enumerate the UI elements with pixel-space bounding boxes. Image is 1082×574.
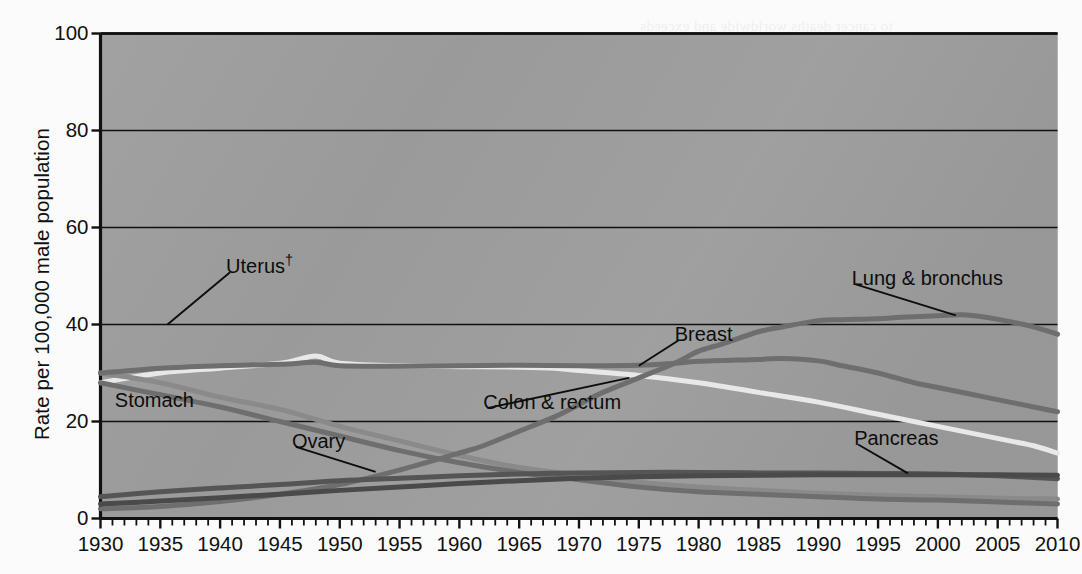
annotation-lung-bronchus: Lung & bronchus — [852, 268, 1003, 288]
annotation-ovary: Ovary — [292, 431, 345, 451]
cancer-death-rate-chart: Rate per 100,000 male population 1008060… — [0, 0, 1082, 574]
annotation-breast: Breast — [675, 324, 733, 344]
annotation-uterus: Uterus† — [226, 256, 293, 276]
annotation-stomach: Stomach — [115, 390, 194, 410]
annotation-colon-rectum: Colon & rectum — [483, 392, 621, 412]
dagger-footnote-marker: † — [285, 253, 293, 269]
annotation-pancreas: Pancreas — [854, 428, 939, 448]
